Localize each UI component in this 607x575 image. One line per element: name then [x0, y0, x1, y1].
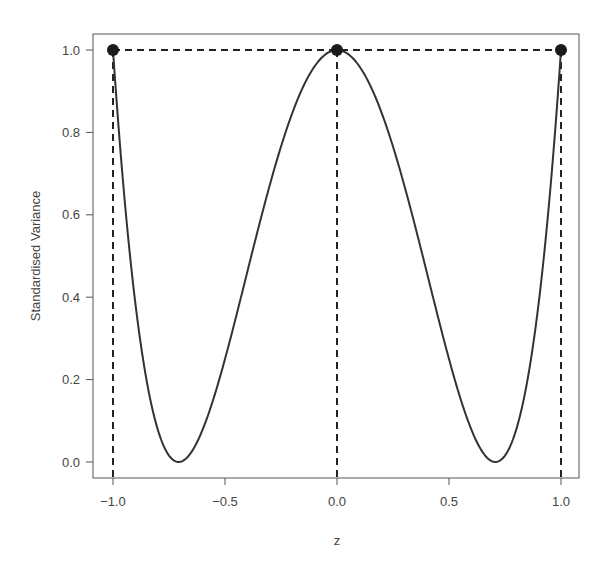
- y-axis-label: Standardised Variance: [28, 191, 43, 322]
- y-tick-label: 0.8: [62, 125, 80, 140]
- reference-lines: [113, 50, 561, 478]
- y-tick-label: 0.6: [62, 207, 80, 222]
- y-axis: 0.00.20.40.60.81.0: [62, 43, 93, 470]
- y-tick-label: 0.2: [62, 372, 80, 387]
- data-point-marker: [107, 44, 119, 56]
- x-tick-label: −1.0: [100, 494, 126, 509]
- x-axis: −1.0−0.50.00.51.0: [100, 478, 570, 509]
- x-tick-label: 0.5: [440, 494, 458, 509]
- x-tick-label: 1.0: [552, 494, 570, 509]
- data-point-marker: [555, 44, 567, 56]
- x-tick-label: 0.0: [328, 494, 346, 509]
- x-tick-label: −0.5: [212, 494, 238, 509]
- y-tick-label: 0.4: [62, 290, 80, 305]
- y-tick-label: 0.0: [62, 455, 80, 470]
- x-axis-label: z: [334, 533, 341, 548]
- data-point-marker: [331, 44, 343, 56]
- y-tick-label: 1.0: [62, 43, 80, 58]
- chart: −1.0−0.50.00.51.0 0.00.20.40.60.81.0 z S…: [0, 0, 607, 575]
